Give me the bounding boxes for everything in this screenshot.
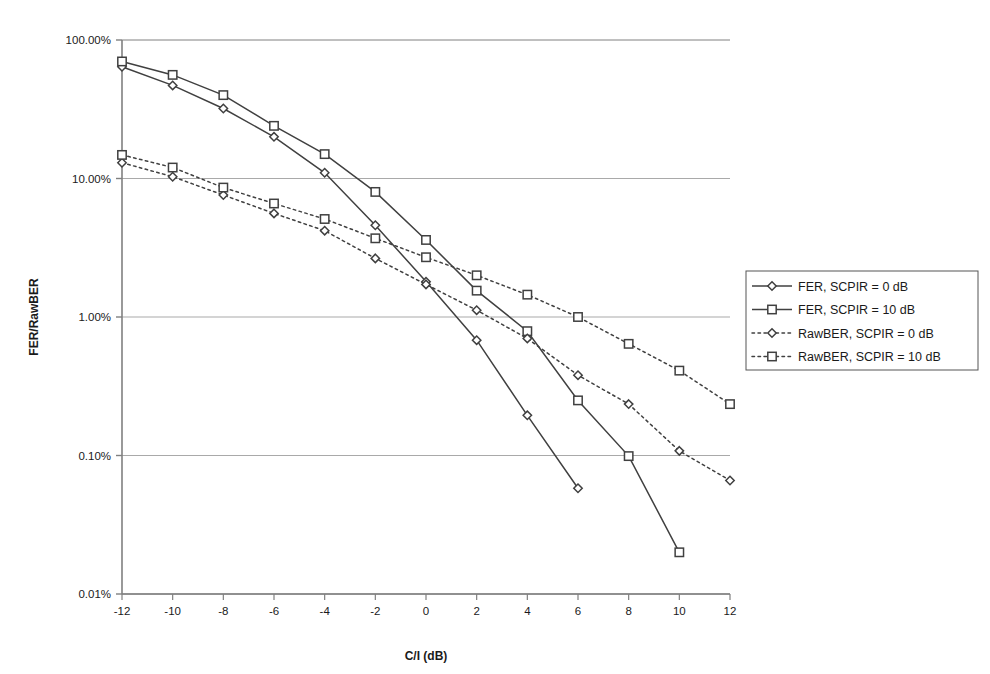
y-tick-label: 100.00% — [66, 34, 111, 46]
x-tick-label: -2 — [370, 605, 380, 617]
data-point-marker — [118, 57, 126, 65]
data-point-marker — [574, 396, 582, 404]
legend-label: RawBER, SCPIR = 10 dB — [798, 350, 941, 364]
x-tick-label: 10 — [673, 605, 686, 617]
y-tick-label: 0.01% — [78, 588, 111, 600]
data-point-marker — [523, 290, 531, 298]
x-tick-label: 2 — [473, 605, 479, 617]
x-axis-title: C/I (dB) — [405, 649, 448, 663]
y-tick-label: 0.10% — [78, 450, 111, 462]
x-tick-label: -4 — [320, 605, 331, 617]
data-point-marker — [422, 253, 430, 261]
x-tick-label: -12 — [114, 605, 131, 617]
data-point-marker — [270, 199, 278, 207]
data-point-marker — [726, 400, 734, 408]
x-tick-label: 6 — [575, 605, 581, 617]
data-point-marker — [675, 548, 683, 556]
x-tick-label: -8 — [218, 605, 228, 617]
x-tick-label: 4 — [524, 605, 531, 617]
data-point-marker — [219, 91, 227, 99]
data-point-marker — [371, 188, 379, 196]
data-point-marker — [472, 286, 480, 294]
data-point-marker — [320, 150, 328, 158]
chart-legend: FER, SCPIR = 0 dBFER, SCPIR = 10 dBRawBE… — [746, 271, 978, 370]
y-tick-label: 10.00% — [72, 173, 111, 185]
x-tick-label: 0 — [423, 605, 429, 617]
data-point-marker — [168, 71, 176, 79]
data-point-marker — [118, 151, 126, 159]
legend-label: RawBER, SCPIR = 0 dB — [798, 327, 934, 341]
data-point-marker — [675, 366, 683, 374]
x-tick-label: -10 — [164, 605, 181, 617]
data-point-marker — [270, 122, 278, 130]
legend-marker-square-icon — [768, 305, 776, 313]
chart-container: 100.00%10.00%1.00%0.10%0.01% -12-10-8-6-… — [0, 0, 990, 674]
x-tick-label: 8 — [625, 605, 631, 617]
data-point-marker — [624, 340, 632, 348]
legend-label: FER, SCPIR = 10 dB — [798, 303, 915, 317]
data-point-marker — [574, 313, 582, 321]
legend-label: FER, SCPIR = 0 dB — [798, 280, 908, 294]
data-point-marker — [472, 271, 480, 279]
x-tick-label: 12 — [724, 605, 737, 617]
data-point-marker — [371, 234, 379, 242]
y-tick-label: 1.00% — [78, 311, 111, 323]
data-point-marker — [624, 452, 632, 460]
data-point-marker — [168, 163, 176, 171]
legend-marker-square-icon — [768, 352, 776, 360]
data-point-marker — [219, 183, 227, 191]
data-point-marker — [320, 215, 328, 223]
data-point-marker — [422, 236, 430, 244]
x-tick-label: -6 — [269, 605, 279, 617]
fer-rawber-vs-ci-chart: 100.00%10.00%1.00%0.10%0.01% -12-10-8-6-… — [0, 0, 990, 674]
y-axis-title: FER/RawBER — [27, 278, 41, 356]
